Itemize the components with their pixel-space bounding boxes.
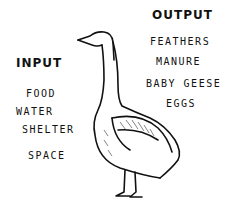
output-item-eggs: EGGS: [166, 98, 196, 109]
output-item-baby-geese: BABY GEESE: [146, 78, 221, 89]
output-item-manure: MANURE: [156, 56, 201, 67]
goose-icon: [0, 0, 242, 205]
goose-diagram: INPUT FOOD WATER SHELTER SPACE OUTPUT FE…: [0, 0, 242, 205]
output-item-feathers: FEATHERS: [150, 36, 210, 47]
input-item-space: SPACE: [28, 150, 66, 161]
input-item-food: FOOD: [26, 88, 56, 99]
output-heading: OUTPUT: [152, 8, 213, 22]
input-item-shelter: SHELTER: [22, 124, 75, 135]
input-heading: INPUT: [16, 56, 62, 70]
input-item-water: WATER: [16, 106, 54, 117]
